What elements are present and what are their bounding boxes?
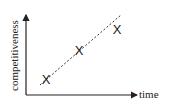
data-point-marker: X (75, 43, 84, 58)
y-axis-label: competitiveness (8, 20, 20, 91)
x-axis-label: time (139, 88, 159, 100)
data-point-marker: X (42, 72, 51, 87)
competitiveness-time-diagram: X X X time competitiveness (0, 0, 179, 112)
data-point-marker: X (113, 22, 122, 37)
